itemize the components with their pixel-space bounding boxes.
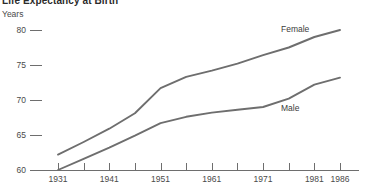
x-axis-tick-label: 1941 xyxy=(92,175,126,184)
series-label-male: Male xyxy=(281,103,299,113)
series-line-male xyxy=(58,78,340,170)
x-axis-tick-label: 1951 xyxy=(144,175,178,184)
x-axis-tick-mark xyxy=(135,163,136,170)
x-axis-line xyxy=(42,170,359,171)
x-axis-tick-mark xyxy=(58,163,59,170)
x-axis-tick-mark xyxy=(314,163,315,170)
series-label-female: Female xyxy=(281,24,309,34)
x-axis-tick-mark xyxy=(237,163,238,170)
x-axis-tick-mark xyxy=(289,163,290,170)
x-axis-tick-label: 1931 xyxy=(41,175,75,184)
x-axis-tick-mark xyxy=(186,163,187,170)
x-axis-tick-label: 1986 xyxy=(323,175,357,184)
x-axis-tick-label: 1971 xyxy=(246,175,280,184)
x-axis-tick-mark xyxy=(84,163,85,170)
x-axis-tick-mark xyxy=(161,163,162,170)
series-line-female xyxy=(58,30,340,155)
chart-container: Life Expectancy at Birth Years 807570656… xyxy=(0,0,365,194)
x-axis-tick-mark xyxy=(212,163,213,170)
x-axis-tick-mark xyxy=(340,163,341,170)
plot-area xyxy=(0,0,365,194)
x-axis-tick-label: 1961 xyxy=(195,175,229,184)
x-axis-tick-mark xyxy=(109,163,110,170)
x-axis-tick-mark xyxy=(263,163,264,170)
